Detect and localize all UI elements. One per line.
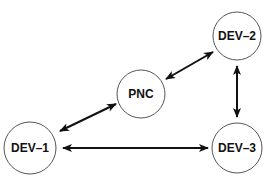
node-label: PNC (128, 87, 154, 101)
edge-pnc-dev2 (166, 52, 213, 79)
edge-pnc-dev1 (60, 104, 116, 131)
node-pnc: PNC (117, 70, 165, 118)
node-label: DEV–3 (218, 141, 256, 155)
node-dev2: DEV–2 (213, 12, 261, 60)
node-dev3: DEV–3 (212, 123, 262, 173)
node-dev1: DEV–1 (4, 122, 56, 174)
node-label: DEV–2 (218, 29, 256, 43)
network-diagram: PNC DEV–2 DEV–1 DEV–3 (0, 0, 272, 178)
node-label: DEV–1 (11, 141, 49, 155)
